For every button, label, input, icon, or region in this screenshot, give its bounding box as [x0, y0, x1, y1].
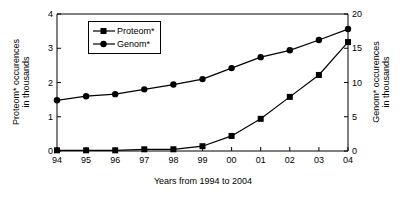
plot-area [0, 0, 402, 199]
legend-label-genom: Genom* [117, 39, 150, 49]
legend-item-proteom: Proteom* [93, 25, 155, 37]
series-proteom [54, 39, 351, 153]
legend-item-genom: Genom* [93, 38, 150, 50]
legend-marker-circle-icon [93, 39, 115, 49]
legend-marker-square-icon [93, 26, 115, 36]
legend: Proteom* Genom* [88, 21, 161, 54]
chart-figure: Proteom* occurences in thousands Genom* … [0, 0, 402, 199]
legend-label-proteom: Proteom* [117, 26, 155, 36]
